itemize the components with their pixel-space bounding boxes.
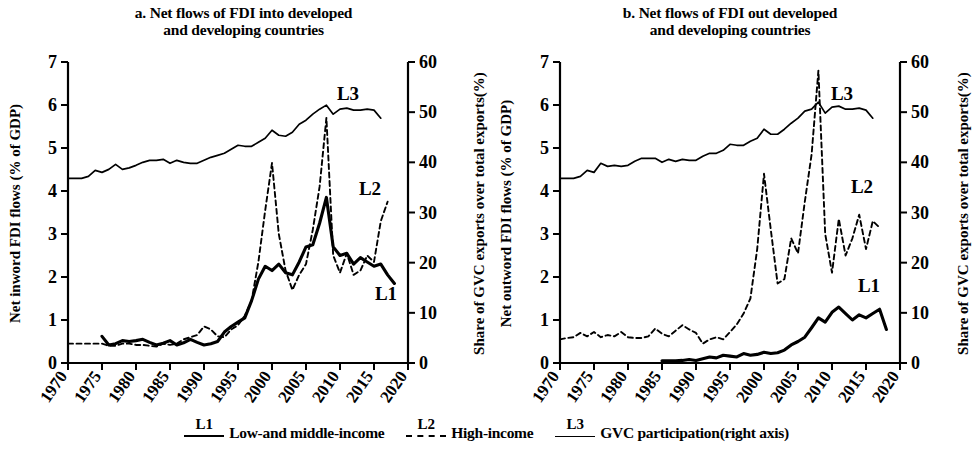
x-tick-label: 1990 [172,367,207,406]
y2-tick-label: 50 [911,102,929,122]
y-tick-label: 3 [540,224,549,244]
x-tick-label: 1995 [206,367,241,406]
y2-tick-label: 30 [419,203,437,223]
x-tick-label: 2005 [766,367,801,406]
legend-line-l3 [555,436,595,437]
x-tick-label: 2005 [274,367,309,406]
y-tick-label: 4 [540,181,549,201]
figure-legend: L1Low-and middle-incomeL2High-incomeL3GV… [0,418,973,468]
x-tick-label: 2015 [834,367,869,406]
y-tick-label: 5 [540,138,549,158]
panel-b-plot: 0123456701020304050601970197519801985199… [487,0,973,418]
legend-key-l1: L1 [184,420,224,442]
series-tag-l3: L3 [831,83,853,104]
y2-tick-label: 20 [911,253,929,273]
y2-tick-label: 60 [911,52,929,72]
x-tick-label: 2010 [800,367,835,406]
x-tick-label: 1980 [596,367,631,406]
y-tick-label: 2 [540,267,549,287]
x-tick-label: 1985 [138,367,173,406]
series-l3 [560,102,873,178]
legend-item-l3: L3GVC participation(right axis) [555,420,789,442]
y-tick-label: 4 [48,181,57,201]
x-tick-label: 1980 [104,367,139,406]
series-tag-l2: L2 [359,178,381,199]
legend-key-l2: L2 [406,420,446,442]
y-tick-label: 7 [48,52,57,72]
y2-tick-label: 30 [911,203,929,223]
series-l3 [68,105,381,178]
legend-item-l1: L1Low-and middle-income [184,420,384,442]
y2-tick-label: 10 [911,303,929,323]
x-tick-label: 2015 [342,367,377,406]
y-tick-label: 7 [540,52,549,72]
series-l2 [560,71,880,344]
y2-tick-label: 10 [419,303,437,323]
figure-root: a. Net flows of FDI into developedand de… [0,0,973,468]
panel-a-plot: 0123456701020304050601970197519801985199… [0,0,487,418]
series-tag-l3: L3 [337,83,359,104]
y2-tick-label: 0 [911,353,920,373]
y-tick-label: 5 [48,138,57,158]
y-tick-label: 1 [540,310,549,330]
x-tick-label: 2020 [376,367,411,406]
panel-a: a. Net flows of FDI into developedand de… [0,0,487,418]
x-tick-label: 1985 [630,367,665,406]
panel-b: b. Net flows of FDI out developedand dev… [487,0,973,418]
legend-line-l1 [184,435,224,437]
legend-label-l1: Low-and middle-income [229,425,384,443]
series-l1 [102,197,394,344]
y2-tick-label: 40 [419,152,437,172]
legend-label-l2: High-income [451,425,533,443]
x-tick-label: 1970 [528,367,563,406]
legend-key-l3: L3 [555,420,595,442]
y-tick-label: 6 [540,95,549,115]
x-tick-label: 2010 [308,367,343,406]
y2-tick-label: 40 [911,152,929,172]
legend-code-l3: L3 [567,417,585,432]
x-tick-label: 1990 [664,367,699,406]
x-tick-label: 1995 [698,367,733,406]
legend-label-l3: GVC participation(right axis) [600,425,789,443]
x-tick-label: 1975 [70,367,105,406]
series-tag-l1: L1 [375,283,397,304]
y2-tick-label: 60 [419,52,437,72]
x-tick-label: 2000 [732,367,767,406]
x-tick-label: 1975 [562,367,597,406]
y2-tick-label: 50 [419,102,437,122]
y-tick-label: 1 [48,310,57,330]
y2-tick-label: 20 [419,253,437,273]
series-tag-l1: L1 [858,275,880,296]
legend-code-l1: L1 [195,417,213,432]
legend-code-l2: L2 [418,417,436,432]
x-tick-label: 2000 [240,367,275,406]
y-tick-label: 6 [48,95,57,115]
y-tick-label: 3 [48,224,57,244]
legend-item-l2: L2High-income [406,420,533,442]
y2-tick-label: 0 [419,353,428,373]
legend-line-l2 [406,435,446,437]
y-tick-label: 2 [48,267,57,287]
series-tag-l2: L2 [851,176,873,197]
x-tick-label: 2020 [868,367,903,406]
x-tick-label: 1970 [36,367,71,406]
